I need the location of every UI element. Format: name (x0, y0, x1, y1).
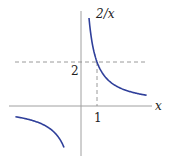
curve-negative-branch (15, 117, 64, 148)
graph-canvas: 2/x x 1 2 (0, 0, 175, 164)
curve-label: 2/x (95, 7, 115, 21)
y-tick-label-2: 2 (71, 64, 79, 78)
x-axis-label: x (155, 99, 162, 113)
curve-positive-branch (89, 18, 147, 95)
x-tick-label-1: 1 (94, 111, 102, 125)
